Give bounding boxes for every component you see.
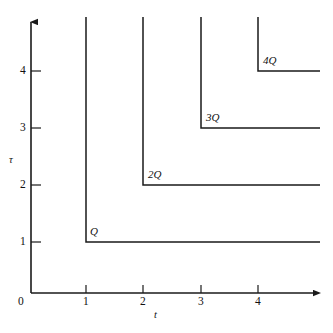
indifference-curve-figure: 0 1 2 3 4 1 2 3 4 τ t Q 2Q 3Q 4Q	[0, 0, 333, 333]
x-tick-label-1: 1	[83, 296, 89, 308]
y-axis-ticks	[31, 71, 41, 242]
x-axis-ticks	[86, 285, 258, 293]
curve-label-q1: Q	[90, 226, 98, 237]
x-tick-label-2: 2	[140, 296, 146, 308]
x-tick-label-3: 3	[198, 296, 204, 308]
x-axis-label: t	[154, 310, 157, 321]
step-curves	[86, 17, 320, 242]
y-axis-label: τ	[9, 155, 13, 166]
curve-label-q3: 3Q	[206, 112, 219, 123]
y-tick-label-3: 3	[20, 122, 26, 134]
curve-label-q2: 2Q	[148, 169, 161, 180]
plot-canvas	[0, 0, 333, 333]
curve-q2	[143, 17, 320, 185]
curve-label-q4: 4Q	[263, 55, 276, 66]
curve-q1	[86, 17, 320, 242]
x-tick-label-4: 4	[255, 296, 261, 308]
y-tick-label-4: 4	[20, 65, 26, 77]
y-tick-label-1: 1	[20, 236, 26, 248]
origin-label: 0	[18, 296, 24, 308]
y-tick-label-2: 2	[20, 179, 26, 191]
